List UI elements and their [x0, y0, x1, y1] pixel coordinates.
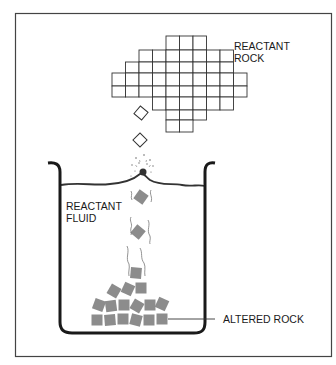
rock-grid-cell	[234, 86, 248, 97]
altered-rock-block	[144, 315, 155, 326]
rock-grid-cell	[220, 73, 234, 86]
rock-grid-cell	[207, 73, 221, 86]
rock-grid-cell	[112, 86, 126, 97]
rock-grid-cell	[193, 97, 207, 110]
rock-grid-cell	[139, 62, 153, 73]
rock-grid-cell	[166, 86, 180, 97]
rock-grid-cell	[207, 50, 221, 62]
rock-grid-cell	[220, 97, 234, 110]
rock-grid-cell	[180, 73, 194, 86]
reactant-rock-grid	[112, 36, 247, 132]
rock-grid-cell	[166, 36, 180, 50]
rock-grid-cell	[193, 110, 207, 120]
altered-rock-block	[92, 315, 103, 326]
label-reactant-fluid-line2: FLUID	[66, 212, 97, 224]
falling-fragments	[130, 106, 149, 279]
altered-fragment	[130, 224, 145, 239]
rock-grid-cell	[193, 86, 207, 97]
altered-fragment	[133, 189, 148, 204]
label-reactant-rock-line1: REACTANT	[234, 40, 290, 52]
rock-grid-cell	[112, 73, 126, 86]
altered-rock-block	[104, 314, 116, 326]
label-reactant-fluid-line1: REACTANT	[66, 200, 122, 212]
rock-grid-cell	[153, 73, 167, 86]
altered-rock-block	[119, 300, 130, 311]
diagram-canvas: REACTANT ROCK REACTANT FLUID ALTERED ROC…	[0, 0, 336, 365]
rock-grid-cell	[126, 73, 140, 86]
rock-grid-cell	[153, 86, 167, 97]
rock-grid-cell	[180, 86, 194, 97]
rock-grid-cell	[207, 97, 221, 110]
rock-grid-cell	[166, 120, 180, 132]
altered-rock-pile	[92, 282, 170, 327]
altered-rock-block	[129, 313, 142, 326]
rock-grid-cell	[126, 86, 140, 97]
rock-grid-cell	[153, 62, 167, 73]
label-altered-rock: ALTERED ROCK	[223, 313, 304, 325]
rock-grid-cell	[180, 36, 194, 50]
rock-grid-cell	[166, 50, 180, 62]
altered-rock-block	[155, 297, 170, 312]
rock-grid-cell	[139, 86, 153, 97]
altered-rock-block	[121, 282, 136, 297]
rock-grid-cell	[166, 62, 180, 73]
altered-rock-block	[136, 283, 147, 294]
rock-grid-cell	[193, 50, 207, 62]
altered-rock-block	[106, 283, 121, 298]
rock-grid-cell	[220, 50, 234, 62]
altered-rock-block	[157, 314, 168, 325]
rock-fragment	[134, 106, 148, 120]
rock-grid-cell	[139, 50, 153, 62]
rock-grid-cell	[193, 36, 207, 50]
rock-grid-cell	[180, 50, 194, 62]
rock-grid-cell	[153, 50, 167, 62]
rock-grid-cell	[220, 86, 234, 97]
rock-grid-cell	[220, 62, 234, 73]
rock-grid-cell	[180, 120, 194, 132]
rock-grid-cell	[180, 62, 194, 73]
rock-grid-cell	[166, 97, 180, 110]
altered-rock-block	[118, 314, 129, 325]
rock-fragment	[133, 133, 147, 147]
rock-grid-cell	[234, 73, 248, 86]
rock-grid-cell	[180, 97, 194, 110]
rock-grid-cell	[126, 62, 140, 73]
rock-grid-cell	[139, 73, 153, 86]
rock-grid-cell	[180, 110, 194, 120]
rock-grid-cell	[207, 62, 221, 73]
label-reactant-rock-line2: ROCK	[234, 52, 264, 64]
rock-grid-cell	[153, 97, 167, 110]
rock-grid-cell	[193, 73, 207, 86]
altered-fragment	[130, 267, 142, 279]
rock-grid-cell	[166, 73, 180, 86]
rock-grid-cell	[166, 110, 180, 120]
rock-grid-cell	[193, 62, 207, 73]
fluid-surface	[61, 173, 205, 186]
altered-rock-block	[92, 298, 106, 312]
altered-rock-block	[105, 300, 117, 312]
altered-rock-block	[129, 298, 144, 313]
altered-rock-block	[145, 300, 156, 311]
rock-grid-cell	[207, 86, 221, 97]
